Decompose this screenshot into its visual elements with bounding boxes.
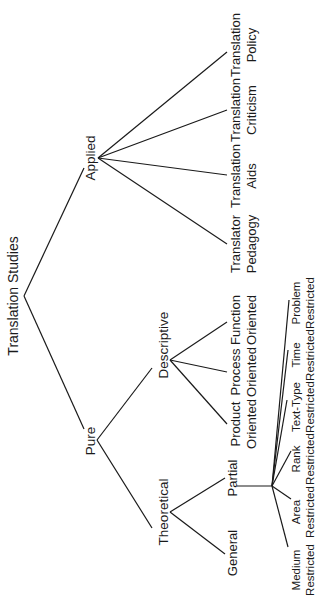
partial-leaf-problem-restricted: Problem Restricted: [290, 277, 316, 329]
leaf-line1: Process: [228, 348, 243, 395]
edge-applied-policy: [98, 52, 227, 158]
leaf-line1: Function: [228, 295, 243, 345]
leaf-line1: Translation: [228, 144, 243, 208]
leaf-line1: Problem: [290, 282, 302, 325]
partial-label: Partial: [225, 459, 240, 496]
descriptive-leaf-process-oriented: Process Oriented: [228, 347, 259, 397]
leaf-line1: Time: [290, 342, 302, 367]
descriptive-label: Descriptive: [156, 312, 171, 379]
edge-root-pure: [24, 296, 84, 429]
edge-root-applied: [24, 168, 84, 296]
general-label: General: [225, 530, 240, 576]
leaf-line2: Restricted: [304, 381, 316, 433]
leaf-line1: Medium: [290, 550, 302, 591]
applied-leaf-translation-policy: Translation Policy: [228, 13, 259, 77]
edge-applied-pedagogy: [98, 158, 227, 244]
leaf-line1: Translation: [228, 78, 243, 142]
partial-leaf-area-restricted: Area Restricted: [290, 486, 316, 538]
edge-pure-theoretical: [97, 440, 152, 528]
leaf-line2: Criticism: [244, 85, 259, 135]
leaf-line2: Restricted: [304, 277, 316, 329]
partial-leaf-medium-restricted: Medium Restricted: [290, 544, 316, 596]
edge-pure-descriptive: [97, 368, 152, 440]
leaf-line1: Text-Type: [290, 382, 302, 432]
leaf-line2: Oriented: [244, 347, 259, 397]
leaf-line2: Restricted: [304, 329, 316, 381]
leaf-line2: Oriented: [244, 399, 259, 449]
leaf-line2: Pedagogy: [244, 214, 259, 273]
leaf-line1: Rank: [290, 445, 302, 472]
leaf-line2: Restricted: [304, 486, 316, 538]
edge-partial-problem: [272, 300, 289, 486]
descriptive-leaf-function-oriented: Function Oriented: [228, 295, 259, 345]
edge-applied-aids: [98, 158, 227, 175]
tree-labels: Translation Studies Applied Pure Descrip…: [5, 13, 316, 596]
leaf-line2: Restricted: [304, 544, 316, 596]
applied-leaf-translator-pedagogy: Translator Pedagogy: [228, 214, 259, 273]
leaf-line2: Restricted: [304, 433, 316, 485]
leaf-line2: Oriented: [244, 295, 259, 345]
edge-applied-criticism: [98, 110, 227, 158]
partial-leaf-rank-restricted: Rank Restricted: [290, 433, 316, 485]
leaf-line1: Area: [290, 499, 302, 524]
leaf-line1: Translator: [228, 214, 243, 273]
applied-leaf-translation-criticism: Translation Criticism: [228, 78, 259, 142]
leaf-line2: Policy: [244, 27, 259, 62]
edge-descriptive-function: [170, 322, 227, 360]
partial-leaf-text-type-restricted: Text-Type Restricted: [290, 381, 316, 433]
theoretical-label: Theoretical: [156, 479, 171, 546]
partial-leaf-time-restricted: Time Restricted: [290, 329, 316, 381]
translation-studies-tree-diagram: Translation Studies Applied Pure Descrip…: [0, 0, 330, 602]
leaf-line1: Product: [228, 401, 243, 446]
leaf-line1: Translation: [228, 13, 243, 77]
edge-theoretical-partial: [170, 478, 225, 512]
descriptive-leaf-product-oriented: Product Oriented: [228, 399, 259, 449]
applied-label: Applied: [83, 135, 98, 180]
leaf-line2: Aids: [244, 163, 259, 189]
pure-label: Pure: [83, 427, 98, 456]
root-label: Translation Studies: [5, 236, 21, 355]
applied-leaf-translation-aids: Translation Aids: [228, 144, 259, 208]
edge-theoretical-general: [170, 512, 225, 554]
